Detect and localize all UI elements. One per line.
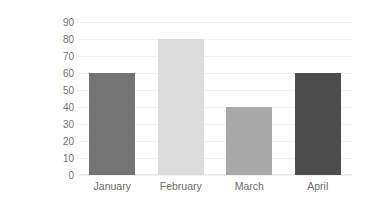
y-tick-label: 80 [50, 34, 74, 45]
bar-slot [295, 22, 341, 175]
x-tick-label: February [147, 180, 216, 192]
y-tick-label: 20 [50, 136, 74, 147]
x-axis-category-labels: JanuaryFebruaryMarchApril [78, 180, 352, 200]
y-tick-label: 10 [50, 153, 74, 164]
bar[interactable] [158, 39, 204, 175]
bar-slot [226, 22, 272, 175]
bar[interactable] [295, 73, 341, 175]
bar[interactable] [226, 107, 272, 175]
bar-series [78, 22, 352, 175]
y-tick-label: 70 [50, 51, 74, 62]
bar-chart: Hours Practiced 0102030405060708090 Janu… [0, 0, 372, 211]
y-axis-ticks: 0102030405060708090 [48, 22, 74, 175]
y-axis-title-label: Hours Practiced [0, 0, 12, 16]
y-tick-label: 30 [50, 119, 74, 130]
y-tick-label: 90 [50, 17, 74, 28]
plot-area [78, 22, 352, 175]
x-tick-label: April [284, 180, 353, 192]
gridline [78, 175, 352, 176]
bar-slot [158, 22, 204, 175]
y-axis-title: Hours Practiced [0, 0, 30, 30]
y-tick-label: 40 [50, 102, 74, 113]
x-tick-label: March [215, 180, 284, 192]
y-tick-label: 0 [50, 170, 74, 181]
bar-slot [89, 22, 135, 175]
bar[interactable] [89, 73, 135, 175]
y-tick-label: 60 [50, 68, 74, 79]
y-tick-label: 50 [50, 85, 74, 96]
x-tick-label: January [78, 180, 147, 192]
